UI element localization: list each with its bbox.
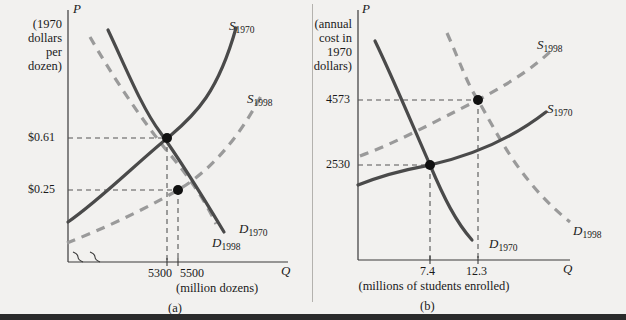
panel-b-x-tick-label-123: 12.3 — [466, 265, 487, 278]
panel-b-demand-1998-label-base: D — [573, 223, 582, 238]
axis-break-mark-1 — [73, 252, 83, 262]
panel-a-axis-breaks — [73, 252, 100, 262]
panel-a-y-desc-line-2: dollars — [10, 31, 62, 45]
panel-b-supply-1998-curve — [360, 48, 554, 156]
panel-a-supply-1998-label-base: S — [247, 91, 254, 106]
panel-a-equilibrium-dot-1970 — [162, 133, 172, 143]
panel-b-y-desc-line-4: dollars) — [296, 59, 352, 73]
panel-a-y-desc-line-3: per — [10, 45, 62, 59]
panel-b-supply-1998-label-base: S — [537, 37, 544, 52]
panel-b-demand-1998-label: D1998 — [573, 224, 601, 239]
panel-a-equilibrium-dot-1998 — [173, 185, 183, 195]
panel-a-guides-1970 — [68, 138, 167, 262]
panel-a-demand-1970-label: D1970 — [239, 222, 267, 237]
panel-a-supply-1970-label-sub: 1970 — [236, 25, 255, 35]
panel-b-y-axis-symbol: P — [362, 2, 370, 17]
axis-break-mark-2 — [90, 252, 100, 262]
panel-b-supply-1970-curve — [358, 112, 546, 185]
panel-a-caption: (a) — [168, 301, 182, 315]
panel-a-supply-1970-label: S1970 — [229, 19, 255, 34]
panel-a-demand-1970-curve — [68, 28, 236, 222]
panel-a-y-axis-description: (1970 dollars per dozen) — [10, 17, 62, 73]
panel-b-equilibrium-dot-1998 — [473, 95, 483, 105]
panel-b-y-axis-description: (annual cost in 1970 dollars) — [296, 17, 352, 73]
panel-b-demand-1970-curve — [375, 41, 472, 240]
panel-b-supply-1970-label-sub: 1970 — [554, 108, 573, 118]
panel-a-x-axis-symbol: Q — [281, 264, 290, 279]
panel-b-y-desc-line-3: 1970 — [296, 45, 352, 59]
panel-a-demand-1998-curve — [90, 37, 216, 224]
panel-b-y-desc-line-1: (annual — [296, 17, 352, 31]
panel-b-caption: (b) — [420, 299, 435, 313]
panel-a-supply-1998-curve — [67, 94, 262, 243]
panel-b-x-axis-symbol: Q — [563, 262, 572, 277]
panel-b-y-tick-label-4573: 4573 — [326, 93, 350, 106]
bottom-border-band — [0, 314, 626, 320]
panel-a-x-tick-label-5500: 5500 — [180, 267, 204, 280]
panel-a-demand-1970-label-base: D — [239, 221, 248, 236]
panel-a-demand-1970-label-sub: 1970 — [248, 228, 267, 238]
panel-a-x-axis-description: (million dozens) — [176, 281, 258, 295]
panel-b-equilibrium-dot-1970 — [425, 160, 435, 170]
figure-root: P (1970 dollars per dozen) $0.61 $0.25 5… — [0, 0, 626, 320]
panel-b-x-tick-label-74: 7.4 — [420, 265, 435, 278]
panel-b-supply-1998-label: S1998 — [537, 38, 563, 53]
panel-a-demand-1998-label-base: D — [212, 235, 221, 250]
panel-a-y-desc-line-1: (1970 — [10, 17, 62, 31]
panel-b-x-axis-description: (millions of students enrolled) — [358, 279, 509, 293]
panel-b-supply-1970-label-base: S — [547, 101, 554, 116]
panel-a-supply-1998-label-sub: 1998 — [254, 98, 273, 108]
panel-a-supply-1970-curve — [108, 30, 224, 232]
panel-b-demand-1970-label: D1970 — [489, 237, 517, 252]
panel-b-demand-1998-label-sub: 1998 — [582, 230, 601, 240]
panel-b-supply-1998-label-sub: 1998 — [544, 44, 563, 54]
panel-a-x-tick-label-5300: 5300 — [148, 267, 172, 280]
panel-b-demand-1970-label-sub: 1970 — [498, 243, 517, 253]
panel-b-y-desc-line-2: cost in — [296, 31, 352, 45]
panel-a-supply-1970-label-base: S — [229, 18, 236, 33]
panel-b-demand-1998-curve — [447, 33, 570, 222]
panel-b-supply-1970-label: S1970 — [547, 102, 573, 117]
panel-a-y-axis-symbol: P — [73, 2, 81, 17]
panel-a-y-tick-label-061: $0.61 — [28, 131, 55, 144]
panel-a-y-tick-label-025: $0.25 — [28, 183, 55, 196]
panel-a-demand-1998-label: D1998 — [212, 236, 240, 251]
panel-a-supply-1998-label: S1998 — [247, 92, 273, 107]
panel-b-y-tick-label-2530: 2530 — [326, 158, 350, 171]
panel-a-demand-1998-label-sub: 1998 — [221, 242, 240, 252]
panel-b-demand-1970-label-base: D — [489, 236, 498, 251]
panel-a-y-desc-line-4: dozen) — [10, 59, 62, 73]
